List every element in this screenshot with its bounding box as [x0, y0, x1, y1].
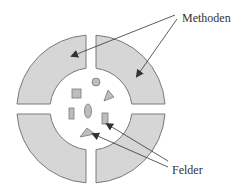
- method-segment-bottom-left: [17, 114, 86, 183]
- field-rect-left: [69, 108, 74, 119]
- field-triangle-bottom: [80, 128, 95, 137]
- field-rect-right: [102, 113, 108, 124]
- field-triangle-right: [104, 90, 114, 101]
- object-diagram: [0, 0, 242, 192]
- field-circle: [92, 78, 100, 86]
- fields-label: Felder: [172, 164, 203, 176]
- field-ellipse: [85, 104, 92, 118]
- field-square: [72, 89, 81, 98]
- methods-label: Methoden: [182, 12, 231, 24]
